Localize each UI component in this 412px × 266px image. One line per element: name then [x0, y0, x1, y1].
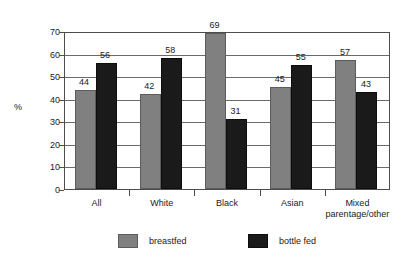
bar-breastfed-asian — [270, 87, 291, 189]
bar-bottle-fed-mixed-parentage-other — [356, 92, 377, 189]
bar-bottle-fed-black — [226, 119, 247, 189]
bar-value-label: 58 — [151, 46, 190, 55]
chart-legend: breastfedbottle fed — [0, 232, 412, 254]
bottle-fed-swatch — [248, 234, 268, 248]
x-tick-mark — [129, 190, 130, 196]
bar-chart: % 010203040506070 44564258693145555743 A… — [0, 0, 412, 266]
breastfed-swatch — [118, 234, 138, 248]
x-category-label-line: Mixed — [311, 198, 404, 209]
bar-value-label: 45 — [260, 75, 299, 84]
y-tick-label: 10 — [20, 163, 60, 172]
y-tick-mark — [59, 190, 64, 191]
bar-value-label: 42 — [130, 82, 169, 91]
y-tick-label: 70 — [20, 28, 60, 37]
bar-value-label: 55 — [281, 53, 320, 62]
legend-item-breastfed: breastfed — [118, 232, 187, 250]
y-tick-label: 20 — [20, 141, 60, 150]
y-tick-label: 60 — [20, 51, 60, 60]
x-tick-mark — [260, 190, 261, 196]
x-category-label: Mixedparentage/other — [311, 198, 404, 220]
legend-label: breastfed — [149, 237, 187, 246]
legend-label: bottle fed — [279, 237, 316, 246]
y-tick-label: 50 — [20, 73, 60, 82]
bar-value-label: 69 — [195, 21, 234, 30]
bar-value-label: 44 — [65, 78, 104, 87]
legend-item-bottle-fed: bottle fed — [248, 232, 316, 250]
y-tick-label: 40 — [20, 96, 60, 105]
bar-breastfed-all — [75, 90, 96, 189]
bar-bottle-fed-white — [161, 58, 182, 189]
y-tick-label: 0 — [20, 186, 60, 195]
bar-value-label: 56 — [86, 51, 125, 60]
x-tick-mark — [194, 190, 195, 196]
bar-value-label: 31 — [216, 107, 255, 116]
x-tick-mark — [325, 190, 326, 196]
y-tick-label: 30 — [20, 118, 60, 127]
bar-value-label: 43 — [346, 80, 385, 89]
bar-breastfed-white — [140, 94, 161, 189]
x-category-label-line: parentage/other — [311, 209, 404, 220]
bar-value-label: 57 — [325, 48, 364, 57]
